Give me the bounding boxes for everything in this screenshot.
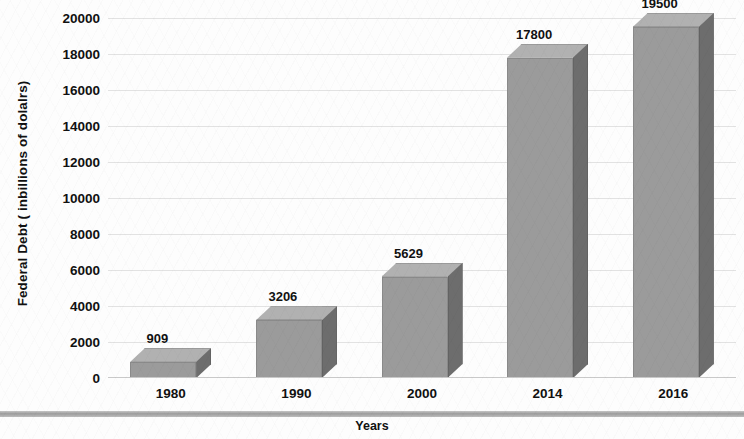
bar-front-face — [382, 277, 448, 378]
axis-baseline — [108, 377, 736, 378]
x-axis-tick-label: 2000 — [407, 386, 437, 401]
bar[interactable] — [633, 13, 714, 378]
y-axis-tick-label: 16000 — [28, 83, 100, 98]
bar-front-face — [633, 27, 699, 378]
bar-value-label: 909 — [146, 331, 168, 346]
bar-front-face — [256, 320, 322, 378]
bar[interactable] — [507, 44, 588, 378]
bar[interactable] — [130, 348, 211, 378]
bar-value-label: 5629 — [394, 246, 423, 261]
bar-front-face — [507, 58, 573, 378]
y-axis-tick-label: 18000 — [28, 47, 100, 62]
y-axis-tick-label: 20000 — [28, 11, 100, 26]
y-axis-tick-label: 8000 — [28, 227, 100, 242]
bar-front-face — [130, 362, 196, 378]
y-axis-tick-labels: 2000018000160001400012000100008000600040… — [28, 0, 100, 439]
bar[interactable] — [256, 306, 337, 378]
x-axis-tick-label: 1990 — [281, 386, 311, 401]
plot-area: 909320656291780019500 — [108, 18, 736, 378]
bar-chart: Federal Debt ( inbillions of dolalrs) 20… — [0, 0, 744, 439]
bar-side-face — [699, 13, 714, 378]
y-axis-tick-label: 14000 — [28, 119, 100, 134]
y-axis-tick-label: 6000 — [28, 263, 100, 278]
y-axis-tick-label: 12000 — [28, 155, 100, 170]
x-axis-title: Years — [0, 419, 744, 433]
y-axis-tick-label: 0 — [28, 371, 100, 386]
x-axis-tick-labels: 19801990200020142016 — [108, 386, 736, 410]
x-axis-band — [0, 411, 744, 417]
bar[interactable] — [382, 263, 463, 378]
x-axis-tick-label: 2014 — [533, 386, 563, 401]
y-axis-tick-label: 4000 — [28, 299, 100, 314]
x-axis-tick-label: 2016 — [658, 386, 688, 401]
y-axis-tick-label: 10000 — [28, 191, 100, 206]
bar-value-label: 17800 — [516, 27, 552, 42]
y-axis-tick-label: 2000 — [28, 335, 100, 350]
bar-value-label: 3206 — [268, 289, 297, 304]
x-axis-tick-label: 1980 — [156, 386, 186, 401]
bar-side-face — [448, 263, 463, 378]
bar-value-label: 19500 — [642, 0, 678, 11]
bar-side-face — [573, 44, 588, 378]
